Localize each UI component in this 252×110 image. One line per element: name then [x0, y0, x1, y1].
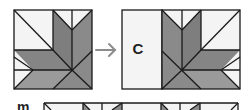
bottom-row-strip — [44, 103, 238, 110]
leaf-block-mirrored — [162, 10, 240, 89]
row-label: m — [17, 100, 29, 110]
leaf-block-original — [14, 10, 92, 89]
strip-c-label: C — [132, 40, 144, 57]
arrow-right-icon — [96, 44, 115, 56]
quilt-diagram — [0, 0, 252, 110]
